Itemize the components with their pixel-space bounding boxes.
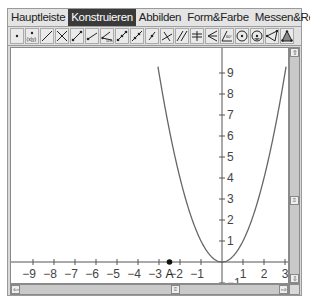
y-tick-label: 9 [227,66,234,80]
point-a[interactable] [167,259,173,265]
x-tick-label: −5 [106,267,120,281]
tab-messen-rechnen[interactable]: Messen&Rechnen [252,9,310,26]
tab-konstruieren[interactable]: Konstruieren [68,9,136,26]
y-tick-label: 8 [227,87,234,101]
vertical-scrollbar[interactable]: ⇧ ≡ ⇩ [289,47,300,284]
x-tick-label: 1 [240,267,247,281]
tab-form-farbe[interactable]: Form&Farbe [184,9,252,26]
x-tick-label: −4 [127,267,141,281]
ray-tool-icon[interactable] [85,28,99,44]
vector-tool-icon[interactable] [115,28,129,44]
x-tick-label: −1 [190,267,204,281]
y-tick-label: 7 [227,108,234,122]
geometry-window: Hauptleiste Konstruieren Abbilden Form&F… [7,8,302,296]
y-tick-label: 4 [227,171,234,185]
y-tick-label: −1 [227,276,241,283]
intersection-tool-icon[interactable] [55,28,69,44]
svg-text:5cm: 5cm [106,39,113,42]
line-tool-icon[interactable] [40,28,54,44]
construction-toolbar: (x|y) 5cm 60° [8,27,301,46]
svg-text:60°: 60° [226,34,232,39]
triangle-tool-icon[interactable] [280,28,294,44]
point-a-label: A [165,267,173,281]
scroll-left-button[interactable]: ⇦ [11,285,20,294]
line-through-points-tool-icon[interactable] [130,28,144,44]
circle-center-tool-icon[interactable] [235,28,249,44]
angle-bisector-tool-icon[interactable] [205,28,219,44]
polygon-tool-icon[interactable] [265,28,279,44]
perpendicular-bisector-tool-icon[interactable] [190,28,204,44]
menu-bar: Hauptleiste Konstruieren Abbilden Form&F… [8,9,301,27]
x-tick-label: 2 [261,267,268,281]
parallel-tool-icon[interactable] [175,28,189,44]
y-tick-label: 2 [227,213,234,227]
tab-hauptleiste[interactable]: Hauptleiste [8,9,68,26]
y-tick-label: 5 [227,150,234,164]
scrollbar-corner [289,284,300,295]
x-tick-label: −7 [64,267,78,281]
y-tick-label: 3 [227,192,234,206]
coordinate-system[interactable]: −9−8−7−6−5−4−3−2−1123123456789−1A [11,48,288,283]
scroll-down-button[interactable]: ⇩ [290,274,299,283]
segment-length-tool-icon[interactable]: 5cm [100,28,114,44]
angle-tool-icon[interactable]: 60° [220,28,234,44]
horizontal-scrollbar[interactable]: ⇦ ≡ ⇨ [10,284,289,295]
x-tick-label: 3 [282,267,288,281]
tab-abbilden[interactable]: Abbilden [136,9,184,26]
drawing-canvas[interactable]: −9−8−7−6−5−4−3−2−1123123456789−1A [10,47,289,284]
point-coordinates-tool-icon[interactable]: (x|y) [25,28,39,44]
scroll-right-button[interactable]: ⇨ [279,285,288,294]
vertical-scroll-thumb[interactable]: ≡ [290,196,299,205]
horizontal-scroll-thumb[interactable]: ≡ [171,285,180,294]
midpoint-tool-icon[interactable] [145,28,159,44]
svg-text:(x|y): (x|y) [27,36,37,42]
y-tick-label: 1 [227,234,234,248]
y-tick-label: 6 [227,129,234,143]
segment-tool-icon[interactable] [70,28,84,44]
x-tick-label: −8 [43,267,57,281]
x-tick-label: −3 [148,267,162,281]
scroll-up-button[interactable]: ⇧ [290,48,299,57]
circle-radius-tool-icon[interactable] [250,28,264,44]
point-tool-icon[interactable] [10,28,24,44]
perpendicular-tool-icon[interactable] [160,28,174,44]
x-tick-label: −6 [85,267,99,281]
x-tick-label: −9 [22,267,36,281]
